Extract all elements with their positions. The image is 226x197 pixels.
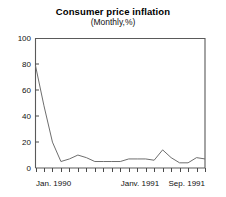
data-series-line bbox=[36, 66, 206, 163]
x-tick-label-start: Jan. 1990 bbox=[36, 179, 72, 188]
y-tick-label: 40 bbox=[22, 112, 31, 121]
line-chart-plot: 100 80 60 40 20 0 Jan. 1990 Janv. 1991 S… bbox=[0, 0, 226, 197]
x-axis-tick-labels: Jan. 1990 Janv. 1991 Sep. 1991 bbox=[36, 179, 206, 188]
y-tick-label: 20 bbox=[22, 138, 31, 147]
plot-frame bbox=[36, 39, 206, 169]
x-tick-label-end: Sep. 1991 bbox=[169, 179, 206, 188]
y-tick-label: 0 bbox=[27, 164, 32, 173]
x-axis-ticks bbox=[37, 168, 206, 172]
y-axis-tick-labels: 100 80 60 40 20 0 bbox=[18, 34, 32, 173]
y-tick-label: 80 bbox=[22, 60, 31, 69]
y-tick-label: 60 bbox=[22, 86, 31, 95]
chart-figure: Consumer price inflation (Monthly,%) 100… bbox=[0, 0, 226, 197]
x-tick-label-middle: Janv. 1991 bbox=[121, 179, 160, 188]
y-tick-label: 100 bbox=[18, 34, 32, 43]
